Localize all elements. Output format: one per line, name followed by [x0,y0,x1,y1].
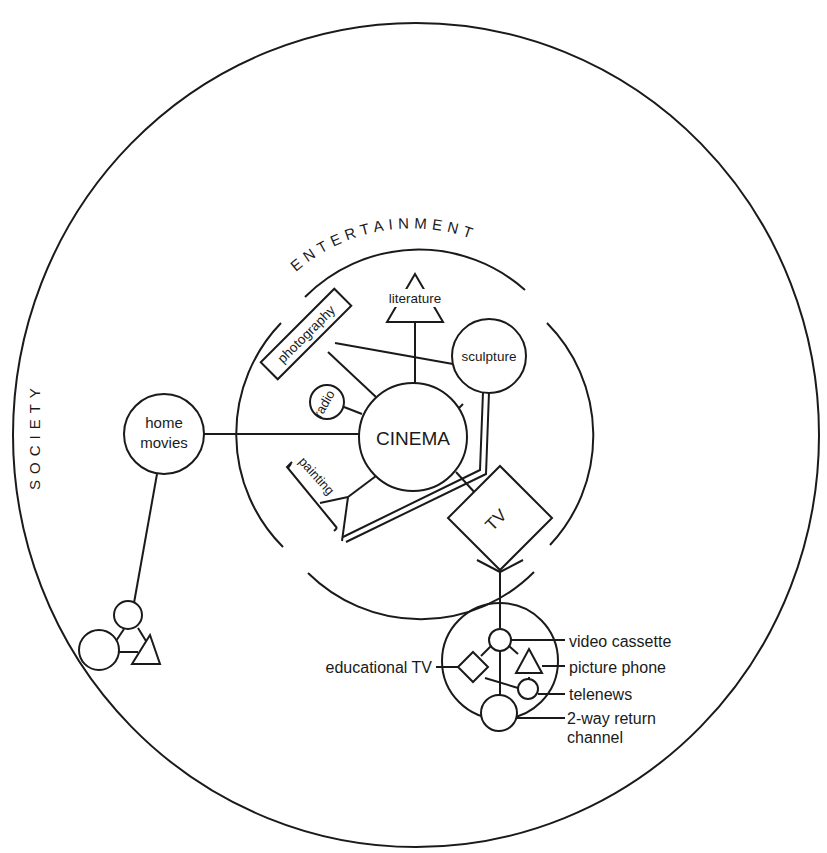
painting-label: painting [296,454,338,498]
educational-tv-label: educational TV [326,659,433,676]
telenews-label: telenews [569,686,632,703]
literature-label: literature [389,291,442,306]
media-diagram: SOCIETY ENTERTAINMENT CINEMA [0,0,827,853]
entertainment-label-path: ENTERTAINMENT [287,214,480,274]
sculpture-label: sculpture [462,349,517,364]
society-label: SOCIETY [26,382,43,490]
two-way-label-2: channel [567,729,623,746]
entertainment-label: ENTERTAINMENT [287,214,480,274]
cinema-label: CINEMA [376,428,450,449]
home-movies-cluster [79,601,160,670]
two-way-label-1: 2-way return [567,710,656,727]
video-cassette-label: video cassette [569,633,671,650]
home-movies-label-1: home [145,414,183,431]
painting-node: painting [287,454,337,531]
photography-node: photography [261,289,352,380]
photography-label: photography [275,302,339,366]
home-movies-label-2: movies [140,434,188,451]
picture-phone-label: picture phone [569,659,666,676]
